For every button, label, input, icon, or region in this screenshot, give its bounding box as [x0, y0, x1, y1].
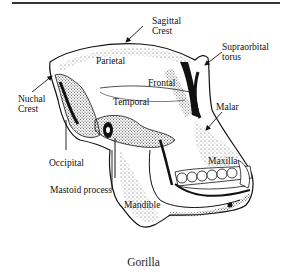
- label-sagittal-line2: Crest: [152, 26, 181, 36]
- label-parietal: Parietal: [96, 56, 125, 66]
- label-occipital: Occipital: [49, 158, 84, 168]
- figure-caption: Gorilla: [0, 256, 287, 268]
- label-nuchal-line2: Crest: [18, 104, 45, 114]
- sagittal-crest-arrow: [126, 26, 143, 42]
- label-malar: Malar: [216, 102, 239, 112]
- label-nuchal-crest: Nuchal Crest: [18, 94, 45, 114]
- gorilla-skull-illustration: [0, 0, 287, 273]
- nuchal-crest-arrow: [32, 76, 52, 92]
- label-supraorbital-line1: Supraorbital: [222, 42, 269, 52]
- label-maxilla: Maxilla: [208, 156, 238, 166]
- label-frontal: Frontal: [148, 78, 175, 88]
- label-nuchal-line1: Nuchal: [18, 94, 45, 104]
- label-mandible: Mandible: [124, 200, 160, 210]
- label-supraorbital-torus: Supraorbital torus: [222, 42, 269, 62]
- label-sagittal-crest: Sagittal Crest: [152, 16, 181, 36]
- label-temporal: Temporal: [113, 97, 149, 107]
- label-supraorbital-line2: torus: [222, 52, 269, 62]
- label-sagittal-line1: Sagittal: [152, 16, 181, 26]
- label-mastoid-process: Mastoid process: [50, 185, 112, 195]
